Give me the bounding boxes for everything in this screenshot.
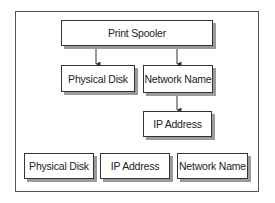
node-label: Network Name	[179, 160, 246, 172]
node-physical-disk-dependency: Physical Disk	[61, 65, 135, 92]
node-label: IP Address	[153, 118, 202, 130]
node-ip-address-dependency: IP Address	[143, 111, 212, 137]
node-physical-disk-standalone: Physical Disk	[24, 153, 94, 179]
node-label: IP Address	[111, 160, 160, 172]
node-network-name-standalone: Network Name	[177, 153, 248, 179]
node-label: Network Name	[144, 73, 211, 85]
node-label: Print Spooler	[108, 27, 166, 39]
node-ip-address-standalone: IP Address	[100, 153, 170, 179]
node-network-name-dependency: Network Name	[143, 65, 213, 93]
node-label: Physical Disk	[68, 73, 128, 85]
node-label: Physical Disk	[29, 160, 89, 172]
node-print-spooler: Print Spooler	[61, 20, 213, 46]
